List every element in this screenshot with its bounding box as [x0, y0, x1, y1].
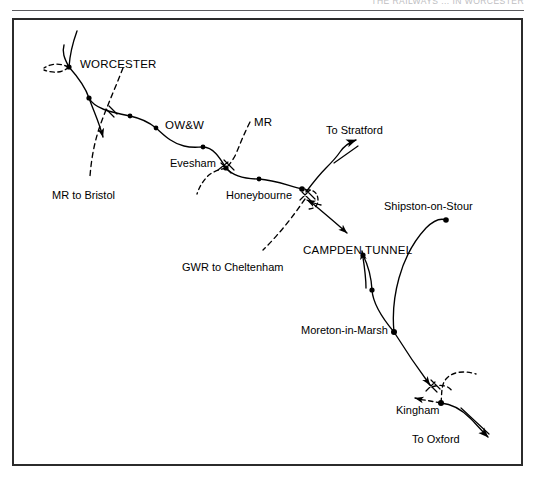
map-frame-border: [12, 18, 523, 466]
map-label-to-stratford: To Stratford: [326, 125, 383, 136]
map-label-gwr-to-cheltenham: GWR to Cheltenham: [182, 262, 283, 273]
map-label-mr: MR: [254, 117, 272, 129]
running-header: THE RAILWAYS ... IN WORCESTER: [371, 0, 524, 6]
map-label-campden-tunnel: CAMPDEN TUNNEL: [303, 245, 412, 257]
figure-page: THE RAILWAYS ... IN WORCESTER: [0, 0, 536, 484]
map-label-kingham: Kingham: [396, 405, 439, 416]
map-label-moreton-in-marsh: Moreton-in-Marsh: [301, 325, 388, 336]
map-label-worcester: WORCESTER: [80, 59, 157, 71]
map-label-honeybourne: Honeybourne: [226, 190, 292, 201]
map-label-to-oxford: To Oxford: [412, 434, 460, 445]
map-label-evesham: Evesham: [170, 158, 216, 169]
map-label-owandw: OW&W: [165, 120, 204, 132]
header-rule: [12, 10, 524, 11]
map-label-mr-to-bristol: MR to Bristol: [52, 190, 115, 201]
map-label-shipston-on-stour: Shipston-on-Stour: [384, 201, 473, 212]
